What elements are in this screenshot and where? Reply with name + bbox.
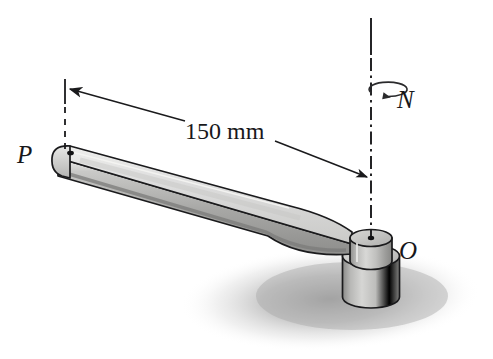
ground-shadow bbox=[177, 239, 482, 359]
point-o-label: O bbox=[399, 237, 417, 264]
rotation-rate-label: N bbox=[396, 86, 415, 113]
dimension-label: 150 mm bbox=[185, 118, 265, 144]
point-p-marker bbox=[67, 151, 74, 156]
dimension-leader-left bbox=[70, 89, 185, 121]
arm-bar bbox=[58, 146, 352, 255]
point-p-label: P bbox=[16, 141, 32, 168]
rotation-axis bbox=[368, 18, 374, 240]
arm-end-cap-p bbox=[52, 146, 74, 178]
point-o-marker bbox=[368, 236, 374, 240]
mechanics-figure: 150 mm P O N bbox=[0, 0, 493, 359]
figure-canvas: 150 mm P O N bbox=[0, 0, 493, 359]
dimension-leader-right bbox=[275, 141, 367, 177]
